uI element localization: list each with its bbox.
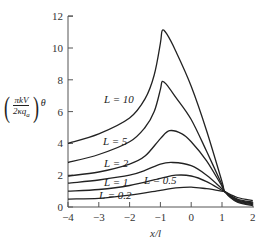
y-tick-label: 6	[58, 106, 64, 118]
y-tick-label: 2	[58, 169, 64, 181]
curve-label-L5: L = 5	[102, 135, 128, 147]
x-ticks: −4−3−2−1012	[62, 202, 255, 223]
y-label-den-text: 2κq	[13, 106, 26, 116]
curve-label-L05: L = 0.5	[143, 174, 177, 186]
curve-l5	[68, 81, 253, 204]
x-axis-label: x/l	[150, 227, 161, 239]
y-label-theta: θ	[41, 97, 46, 108]
y-label-denominator: 2κqa	[12, 106, 31, 119]
y-tick-label: 12	[52, 10, 63, 22]
y-tick-label: 10	[52, 42, 64, 54]
curve-label-L2: L = 2	[103, 157, 129, 169]
x-tick-label: 2	[250, 211, 256, 223]
x-tick-label: −2	[124, 211, 136, 223]
curve-label-L10: L = 10	[103, 93, 134, 105]
paren-open: (	[4, 92, 10, 122]
y-tick-label: 8	[58, 74, 64, 86]
y-tick-label: 4	[58, 137, 64, 149]
y-label-fraction: πkV 2κqa	[12, 95, 31, 119]
curve-label-L02: L = 0.2	[98, 189, 132, 201]
x-tick-label: −4	[62, 211, 74, 223]
x-tick-label: 1	[219, 211, 225, 223]
y-label-numerator: πkV	[13, 95, 29, 106]
curve-label-L1: L = 1	[103, 176, 128, 188]
y-axis-label: ( πkV 2κqa ) θ	[2, 92, 46, 122]
x-tick-label: −3	[93, 211, 105, 223]
x-tick-label: −1	[155, 211, 167, 223]
paren-close: )	[33, 92, 39, 122]
y-label-den-sub: a	[26, 111, 30, 119]
chart: 024681012 −4−3−2−1012 L = 10 L = 5 L = 2…	[0, 0, 270, 245]
x-tick-label: 0	[188, 211, 194, 223]
